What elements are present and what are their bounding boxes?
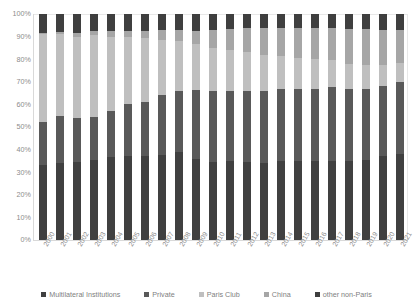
bar-segment[interactable] [328, 161, 336, 240]
bar-segment[interactable] [107, 157, 115, 239]
bar-segment[interactable] [277, 28, 285, 56]
bar-segment[interactable] [226, 161, 234, 240]
bar-segment[interactable] [345, 161, 353, 240]
stacked-bar[interactable] [396, 14, 404, 240]
bar-segment[interactable] [226, 14, 234, 29]
stacked-bar[interactable] [141, 14, 149, 240]
bar-segment[interactable] [260, 14, 268, 28]
stacked-bar[interactable] [209, 14, 217, 240]
bar-segment[interactable] [362, 89, 370, 160]
bar-segment[interactable] [175, 41, 183, 91]
bar-segment[interactable] [294, 58, 302, 89]
bar-segment[interactable] [379, 86, 387, 156]
stacked-bar[interactable] [192, 14, 200, 240]
bar-segment[interactable] [73, 118, 81, 162]
stacked-bar[interactable] [328, 14, 336, 240]
bar-segment[interactable] [362, 14, 370, 29]
bar-segment[interactable] [158, 30, 166, 40]
stacked-bar[interactable] [260, 14, 268, 240]
bar-segment[interactable] [345, 64, 353, 89]
bar-segment[interactable] [124, 104, 132, 156]
bar-segment[interactable] [175, 30, 183, 41]
bar-segment[interactable] [328, 28, 336, 61]
bar-segment[interactable] [73, 37, 81, 118]
bar-segment[interactable] [56, 14, 64, 32]
stacked-bar[interactable] [39, 14, 47, 240]
bar-segment[interactable] [260, 55, 268, 91]
bar-segment[interactable] [107, 37, 115, 112]
stacked-bar[interactable] [277, 14, 285, 240]
bar-segment[interactable] [124, 156, 132, 240]
bar-segment[interactable] [158, 155, 166, 240]
stacked-bar[interactable] [124, 14, 132, 240]
bar-segment[interactable] [192, 44, 200, 89]
bar-segment[interactable] [328, 87, 336, 160]
bar-segment[interactable] [379, 30, 387, 65]
bar-segment[interactable] [141, 14, 149, 31]
bar-segment[interactable] [124, 37, 132, 105]
bar-segment[interactable] [209, 30, 217, 48]
bar-segment[interactable] [73, 14, 81, 33]
bar-segment[interactable] [345, 89, 353, 161]
bar-segment[interactable] [396, 82, 404, 154]
stacked-bar[interactable] [379, 14, 387, 240]
stacked-bar[interactable] [73, 14, 81, 240]
bar-segment[interactable] [277, 161, 285, 240]
bar-segment[interactable] [209, 48, 217, 91]
stacked-bar[interactable] [311, 14, 319, 240]
stacked-bar[interactable] [90, 14, 98, 240]
bar-segment[interactable] [90, 35, 98, 116]
bar-segment[interactable] [311, 89, 319, 161]
bar-segment[interactable] [192, 159, 200, 240]
stacked-bar[interactable] [158, 14, 166, 240]
stacked-bar[interactable] [345, 14, 353, 240]
bar-segment[interactable] [226, 50, 234, 91]
bar-segment[interactable] [294, 161, 302, 240]
bar-segment[interactable] [192, 31, 200, 45]
bar-segment[interactable] [39, 34, 47, 122]
bar-segment[interactable] [345, 14, 353, 29]
bar-segment[interactable] [39, 165, 47, 240]
bar-segment[interactable] [56, 116, 64, 163]
bar-segment[interactable] [277, 89, 285, 161]
bar-segment[interactable] [328, 60, 336, 87]
bar-segment[interactable] [243, 52, 251, 90]
legend-item[interactable]: Paris Club [199, 291, 240, 298]
bar-segment[interactable] [39, 14, 47, 33]
stacked-bar[interactable] [362, 14, 370, 240]
stacked-bar[interactable] [175, 14, 183, 240]
bar-segment[interactable] [243, 28, 251, 53]
bar-segment[interactable] [90, 160, 98, 240]
bar-segment[interactable] [311, 59, 319, 88]
bar-segment[interactable] [141, 31, 149, 38]
bar-segment[interactable] [90, 14, 98, 31]
bar-segment[interactable] [141, 38, 149, 102]
legend-item[interactable]: Private [144, 291, 174, 298]
bar-segment[interactable] [277, 56, 285, 89]
bar-segment[interactable] [56, 34, 64, 115]
bar-segment[interactable] [379, 14, 387, 30]
bar-segment[interactable] [209, 14, 217, 30]
bar-segment[interactable] [362, 160, 370, 240]
bar-segment[interactable] [362, 29, 370, 65]
bar-segment[interactable] [226, 29, 234, 50]
stacked-bar[interactable] [294, 14, 302, 240]
bar-segment[interactable] [209, 91, 217, 162]
bar-segment[interactable] [260, 28, 268, 55]
legend-item[interactable]: Multilateral Institutions [41, 291, 120, 298]
bar-segment[interactable] [277, 14, 285, 28]
stacked-bar[interactable] [107, 14, 115, 240]
bar-segment[interactable] [345, 29, 353, 64]
bar-segment[interactable] [379, 156, 387, 240]
bar-segment[interactable] [141, 156, 149, 240]
bar-segment[interactable] [141, 102, 149, 156]
bar-segment[interactable] [396, 14, 404, 30]
bar-segment[interactable] [294, 28, 302, 59]
bar-segment[interactable] [56, 163, 64, 240]
bar-segment[interactable] [311, 14, 319, 28]
bar-segment[interactable] [379, 65, 387, 86]
bar-segment[interactable] [294, 14, 302, 28]
bar-segment[interactable] [39, 122, 47, 165]
bar-segment[interactable] [243, 162, 251, 240]
bar-segment[interactable] [243, 91, 251, 162]
